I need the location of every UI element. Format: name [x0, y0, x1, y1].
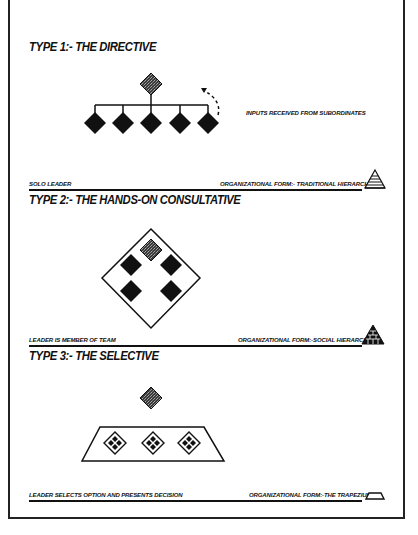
subordinate-diamond-icon: [112, 112, 134, 134]
consultative-team-diagram: [102, 229, 200, 328]
directive-hierarchy-diagram: [84, 73, 219, 134]
subordinate-diamond-icon: [140, 112, 162, 134]
subordinate-diamond-icon: [84, 112, 106, 134]
feedback-arrow-icon: [203, 90, 219, 115]
subordinate-diamond-icon: [197, 112, 219, 134]
diagram-graphics: [0, 0, 418, 535]
trapezium-icon: [366, 493, 384, 499]
leader-diamond-icon: [140, 73, 162, 95]
brick-pyramid-icon: [362, 325, 384, 344]
leader-diamond-icon: [140, 387, 162, 409]
subordinate-diamond-icon: [169, 112, 191, 134]
selective-trapezium-diagram: [82, 387, 224, 461]
striped-pyramid-icon: [365, 170, 385, 188]
